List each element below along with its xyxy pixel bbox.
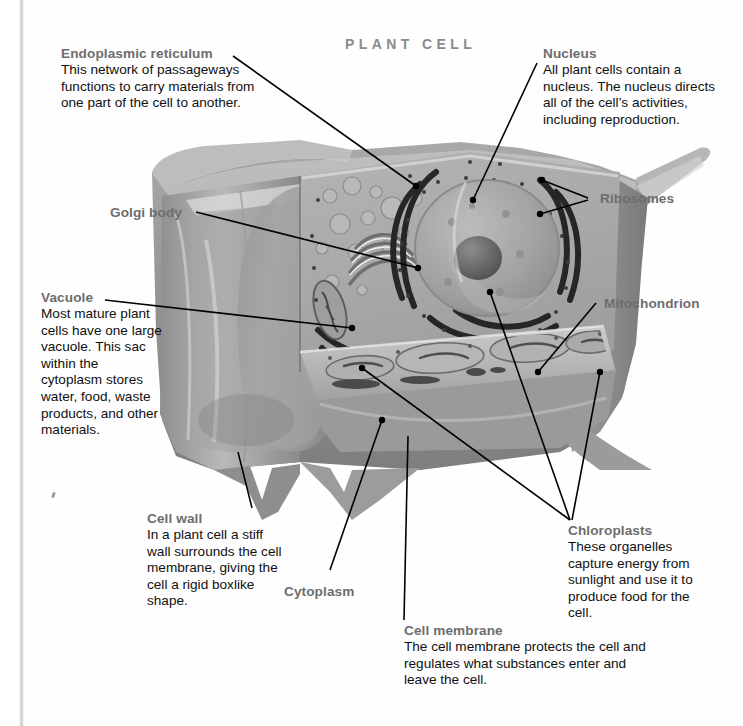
label-cytoplasm: Cytoplasm (284, 584, 354, 599)
callout-body-chloroplasts: These organelles capture energy from sun… (568, 539, 714, 622)
callout-heading-cell-wall: Cell wall (147, 510, 283, 527)
callout-chloroplasts: Chloroplasts These organelles capture en… (568, 522, 714, 622)
callout-heading-nucleus: Nucleus (543, 45, 729, 62)
label-ribosomes: Ribosomes (600, 191, 674, 206)
label-golgi-body: Golgi body (110, 205, 182, 220)
callout-endoplasmic-reticulum: Endoplasmic reticulum This network of pa… (61, 45, 261, 112)
callout-cell-wall: Cell wall In a plant cell a stiff wall s… (147, 510, 283, 610)
label-mitochondrion: Mitochondrion (604, 296, 700, 311)
nucleus-organelle (415, 180, 559, 316)
callout-heading-vacuole: Vacuole (41, 289, 163, 306)
scanned-page: PLANT CELL Endoplasmic reticulum This ne… (0, 0, 743, 726)
callout-heading-cell-membrane: Cell membrane (404, 622, 656, 639)
callout-body-cell-wall: In a plant cell a stiff wall surrounds t… (147, 527, 283, 610)
callout-body-cell-membrane: The cell membrane protects the cell and … (404, 639, 656, 689)
callout-nucleus: Nucleus All plant cells contain a nucleu… (543, 45, 729, 128)
page-title: PLANT CELL (345, 36, 476, 52)
callout-body-endoplasmic-reticulum: This network of passageways functions to… (61, 62, 261, 112)
callout-body-nucleus: All plant cells contain a nucleus. The n… (543, 62, 729, 128)
callout-vacuole: Vacuole Most mature plant cells have one… (41, 289, 163, 439)
callout-heading-endoplasmic-reticulum: Endoplasmic reticulum (61, 45, 261, 62)
callout-heading-chloroplasts: Chloroplasts (568, 522, 714, 539)
callout-body-vacuole: Most mature plant cells have one large v… (41, 306, 163, 439)
callout-cell-membrane: Cell membrane The cell membrane protects… (404, 622, 656, 689)
